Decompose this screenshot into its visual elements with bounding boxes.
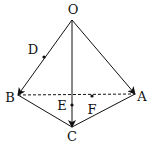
label-A: A (136, 89, 147, 104)
label-F: F (87, 102, 96, 117)
point-D (42, 55, 45, 58)
edges (18, 20, 135, 127)
tetrahedron-diagram: O A B C D E F (0, 0, 150, 144)
label-C: C (67, 129, 77, 144)
edge-OA (72, 20, 135, 94)
label-B: B (5, 90, 15, 105)
points (42, 55, 93, 106)
point-E (70, 103, 73, 106)
label-O: O (68, 2, 79, 17)
point-F (90, 94, 93, 97)
label-E: E (57, 98, 67, 113)
label-D: D (28, 42, 38, 57)
labels: O A B C D E F (5, 2, 147, 144)
edge-CA (72, 94, 135, 127)
edge-BA (18, 94, 135, 95)
